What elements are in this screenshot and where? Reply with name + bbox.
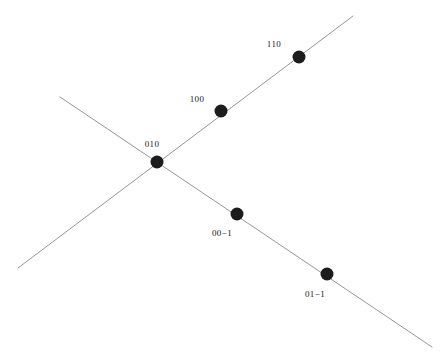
lattice-point-00-1[interactable] <box>231 208 244 221</box>
point-label-010: 010 <box>145 139 160 149</box>
diagram-canvas: 110 100 010 00−1 01−1 <box>0 0 448 362</box>
lattice-point-110[interactable] <box>293 51 306 64</box>
point-label-00-1: 00−1 <box>212 228 232 238</box>
point-label-110: 110 <box>267 39 281 49</box>
point-label-01-1: 01−1 <box>305 289 325 299</box>
lattice-point-01-1[interactable] <box>321 268 334 281</box>
lattice-point-010[interactable] <box>151 156 164 169</box>
lattice-point-100[interactable] <box>215 105 228 118</box>
diagram-background <box>0 0 448 362</box>
lattice-diagram: 110 100 010 00−1 01−1 <box>0 0 448 362</box>
point-label-100: 100 <box>190 94 205 104</box>
